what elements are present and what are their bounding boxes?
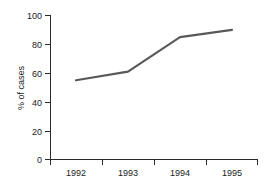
y-axis-title: % of cases xyxy=(16,65,26,110)
y-tick-label-60: 60 xyxy=(32,69,42,79)
x-tick-label-1993: 1993 xyxy=(118,168,138,178)
x-tick-label-1992: 1992 xyxy=(66,168,86,178)
y-tick-label-40: 40 xyxy=(32,98,42,108)
y-tick-label-20: 20 xyxy=(32,127,42,137)
y-tick-label-100: 100 xyxy=(27,11,42,21)
chart-figure: 100 80 60 40 20 0 1992 1993 1994 1995 % … xyxy=(0,0,269,189)
y-tick-label-80: 80 xyxy=(32,40,42,50)
y-tick-label-0: 0 xyxy=(37,155,42,165)
line-chart: 100 80 60 40 20 0 1992 1993 1994 1995 % … xyxy=(0,0,269,189)
x-tick-label-1994: 1994 xyxy=(170,168,190,178)
x-tick-label-1995: 1995 xyxy=(222,168,242,178)
